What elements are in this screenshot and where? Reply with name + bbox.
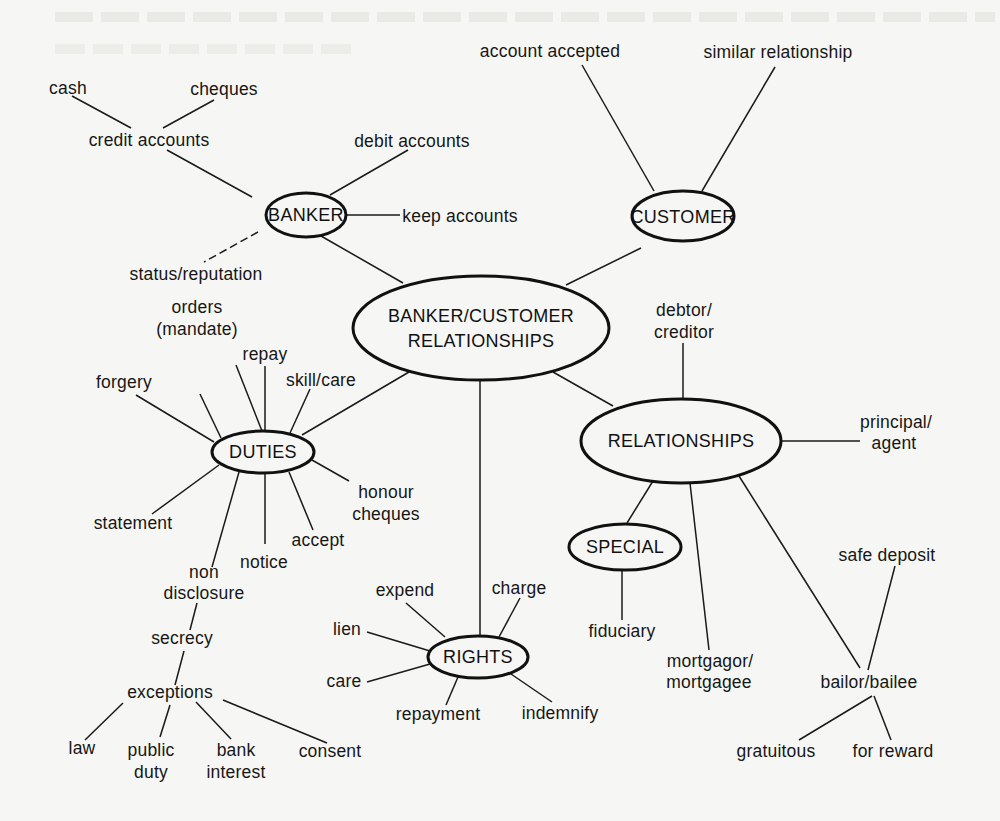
label-charge: charge — [492, 578, 547, 598]
label-honour: honour — [358, 482, 414, 502]
label-secrecy: secrecy — [151, 628, 213, 648]
label-orders: orders — [172, 297, 223, 317]
label-repayment: repayment — [396, 704, 480, 724]
relationships-node-label: RELATIONSHIPS — [608, 430, 755, 452]
label-status-reputation: status/reputation — [130, 264, 263, 284]
label-gratuitous: gratuitous — [737, 741, 816, 761]
label-mortgagor: mortgagor/ — [667, 651, 754, 671]
label-public: public — [128, 740, 175, 760]
rights-node-label: RIGHTS — [443, 646, 513, 668]
label-for-reward: for reward — [853, 741, 934, 761]
label-bank: bank — [217, 740, 256, 760]
label-exceptions: exceptions — [127, 682, 213, 702]
label-bailor-bailee: bailor/bailee — [821, 672, 918, 692]
label-care: care — [327, 671, 362, 691]
label-consent: consent — [299, 741, 362, 761]
label-mandate: (mandate) — [156, 319, 238, 339]
label-similar-relationship: similar relationship — [704, 42, 853, 62]
diagram-canvas: BANKER/CUSTOMER RELATIONSHIPS BANKER CUS… — [0, 0, 1000, 821]
label-agent: agent — [872, 433, 917, 453]
label-creditor: creditor — [654, 322, 714, 342]
label-statement: statement — [94, 513, 173, 533]
central-node-ellipse — [353, 276, 609, 380]
label-account-accepted: account accepted — [480, 41, 620, 61]
label-accept: accept — [292, 530, 345, 550]
central-node-label-2: RELATIONSHIPS — [408, 330, 555, 352]
label-interest: interest — [207, 762, 266, 782]
label-non: non — [189, 562, 219, 582]
label-cash: cash — [49, 78, 87, 98]
label-keep-accounts: keep accounts — [402, 206, 517, 226]
label-duty: duty — [134, 762, 168, 782]
label-cheques: cheques — [190, 79, 258, 99]
label-expend: expend — [376, 580, 435, 600]
label-fiduciary: fiduciary — [589, 621, 656, 641]
central-node-line2: RELATIONSHIPS — [408, 330, 555, 352]
label-indemnify: indemnify — [522, 703, 599, 723]
label-safe-deposit: safe deposit — [839, 545, 936, 565]
duties-node-label: DUTIES — [229, 441, 297, 463]
label-skill-care: skill/care — [286, 370, 356, 390]
banker-node-label: BANKER — [268, 204, 344, 226]
label-law: law — [69, 738, 96, 758]
label-notice: notice — [240, 552, 288, 572]
label-disclosure: disclosure — [164, 583, 245, 603]
label-honour-cheques: cheques — [352, 504, 420, 524]
label-forgery: forgery — [96, 372, 152, 392]
central-node-label: BANKER/CUSTOMER — [388, 305, 574, 327]
label-lien: lien — [333, 619, 361, 639]
central-node-line1: BANKER/CUSTOMER — [388, 305, 574, 327]
label-debit-accounts: debit accounts — [354, 131, 470, 151]
label-repay: repay — [243, 344, 288, 364]
label-credit-accounts: credit accounts — [89, 130, 210, 150]
label-debtor: debtor/ — [656, 300, 712, 320]
label-principal: principal/ — [860, 412, 932, 432]
label-mortgagee: mortgagee — [666, 672, 751, 692]
special-node-label: SPECIAL — [586, 536, 664, 558]
customer-node-label: CUSTOMER — [630, 206, 735, 228]
